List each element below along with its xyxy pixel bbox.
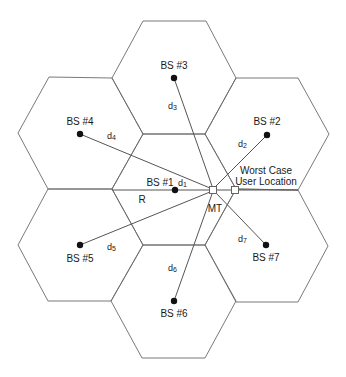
- worst-case-location-marker-icon: [232, 187, 239, 194]
- bs7-label: BS #7: [252, 252, 280, 263]
- bs3-label: BS #3: [160, 60, 188, 71]
- worst-case-label-line2: User Location: [235, 176, 297, 187]
- d4-label: d4: [107, 131, 116, 141]
- d1-label: d1: [178, 178, 187, 188]
- mobile-terminal-marker-icon: [210, 187, 217, 194]
- bs7-dot-icon: [263, 242, 269, 248]
- worst-case-label-line1: Worst Case: [240, 165, 292, 176]
- bs6-label: BS #6: [160, 308, 188, 319]
- cellular-hexagon-diagram: BS #1 BS #2 BS #3 BS #4 BS #5 BS #6 BS #…: [0, 0, 346, 377]
- bs2-label: BS #2: [253, 116, 281, 127]
- d6-label: d6: [168, 263, 177, 273]
- bs5-dot-icon: [77, 242, 83, 248]
- mobile-terminal-label: MT: [208, 203, 222, 214]
- bs1-label: BS #1: [146, 177, 174, 188]
- bs2-dot-icon: [264, 132, 270, 138]
- distance-line-d4: [80, 134, 210, 188]
- bs6-dot-icon: [171, 298, 177, 304]
- distance-labels: d1 d2 d3 d4 d5 d6 d7: [107, 101, 247, 273]
- bs4-dot-icon: [77, 131, 83, 137]
- bs4-label: BS #4: [66, 116, 94, 127]
- d2-label: d2: [238, 139, 247, 149]
- bs3-dot-icon: [171, 75, 177, 81]
- d5-label: d5: [107, 242, 116, 252]
- d7-label: d7: [238, 234, 247, 244]
- radius-label: R: [138, 194, 145, 205]
- bs5-label: BS #5: [66, 253, 94, 264]
- d3-label: d3: [168, 101, 177, 111]
